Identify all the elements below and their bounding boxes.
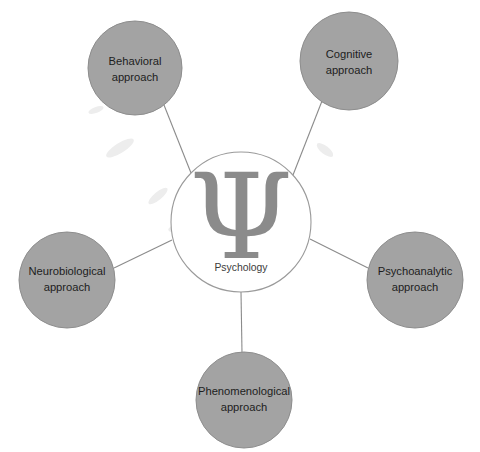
node-center-psychology[interactable]: Ψ Psychology <box>171 148 311 292</box>
node-cognitive-label-line1: Cognitive <box>326 48 373 60</box>
node-behavioral-label-line2: approach <box>112 71 159 83</box>
connector-center-to-psychoanalytic <box>310 239 368 268</box>
node-cognitive[interactable]: Cognitive approach <box>300 12 398 110</box>
node-behavioral-circle[interactable] <box>88 21 182 115</box>
center-label: Psychology <box>214 262 268 273</box>
node-psychoanalytic-label-line2: approach <box>392 281 439 293</box>
node-cognitive-label-line2: approach <box>326 64 373 76</box>
node-phenomenological-label-line2: approach <box>221 401 268 413</box>
connector-center-to-cognitive <box>293 101 322 175</box>
node-phenomenological[interactable]: Phenomenological approach <box>196 352 292 448</box>
connector-center-to-phenomenological <box>241 292 242 353</box>
node-phenomenological-label-line1: Phenomenological <box>198 385 290 397</box>
diagram-canvas: Behavioral approach Cognitive approach P… <box>0 0 480 452</box>
connector-center-to-neurobiological <box>114 240 172 268</box>
node-behavioral[interactable]: Behavioral approach <box>88 21 182 115</box>
node-neurobiological[interactable]: Neurobiological approach <box>19 232 115 328</box>
node-behavioral-label-line1: Behavioral <box>109 55 162 67</box>
node-psychoanalytic[interactable]: Psychoanalytic approach <box>367 232 463 328</box>
connector-center-to-behavioral <box>164 105 191 173</box>
psychology-concept-map: Behavioral approach Cognitive approach P… <box>0 0 480 452</box>
node-neurobiological-label-line1: Neurobiological <box>28 265 105 277</box>
node-neurobiological-label-line2: approach <box>44 281 91 293</box>
node-psychoanalytic-label-line1: Psychoanalytic <box>378 265 453 277</box>
node-cognitive-circle[interactable] <box>300 12 398 110</box>
